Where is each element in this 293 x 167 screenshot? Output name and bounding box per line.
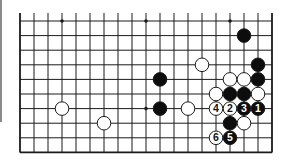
white-stone-icon [181,102,195,116]
black-stone [237,29,251,43]
white-stone [209,87,223,101]
black-stone-icon [223,87,237,101]
black-stone [223,116,237,130]
move-number-label: 5 [227,131,233,143]
white-stone [181,102,195,116]
star-point-icon [60,19,64,23]
white-stone-icon [195,58,209,72]
white-stone [97,116,111,130]
star-point-icon [228,19,232,23]
white-stone-icon [223,73,237,87]
white-stone [237,116,251,130]
black-stone-icon [251,73,265,87]
white-stone [195,58,209,72]
white-stone-icon [209,87,223,101]
move-number-label: 6 [213,131,219,143]
star-point-icon [144,19,148,23]
black-stone-move-1: 1 [251,102,265,116]
white-stone-move-6: 6 [209,131,223,145]
move-number-label: 4 [213,102,219,114]
black-stone-icon [153,102,167,116]
black-stone [223,87,237,101]
black-stone-move-5: 5 [223,131,237,145]
white-stone [237,73,251,87]
black-stone [153,102,167,116]
star-point-icon [144,107,148,111]
black-stone [251,58,265,72]
black-stone-icon [237,87,251,101]
black-stone-icon [153,73,167,87]
white-stone [223,73,237,87]
go-board: 423165 [0,0,293,167]
black-stone [153,73,167,87]
white-stone-move-4: 4 [209,102,223,116]
white-stone-icon [97,116,111,130]
black-stone [237,87,251,101]
move-number-label: 3 [241,102,247,114]
white-stone [55,102,69,116]
black-stone-icon [223,116,237,130]
black-stone-icon [251,58,265,72]
white-stone-icon [237,116,251,130]
white-stone-icon [237,73,251,87]
move-number-label: 1 [255,102,261,114]
move-number-label: 2 [227,102,233,114]
black-stone [251,73,265,87]
black-stone-icon [237,29,251,43]
white-stone-icon [55,102,69,116]
black-stone-move-3: 3 [237,102,251,116]
white-stone [251,87,265,101]
white-stone-icon [251,87,265,101]
white-stone-move-2: 2 [223,102,237,116]
